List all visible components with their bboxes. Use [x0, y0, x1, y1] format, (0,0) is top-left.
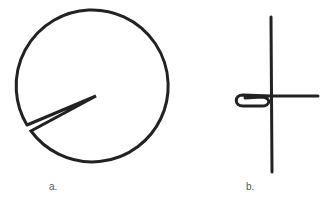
loop: [236, 95, 271, 106]
panel-a-drawing: [16, 10, 168, 162]
panel-b-label: b.: [246, 181, 254, 192]
panel-a-label: a.: [49, 181, 57, 192]
figure-canvas: [0, 0, 335, 205]
panel-b-drawing: [236, 17, 318, 172]
circle-with-notch: [16, 10, 168, 162]
